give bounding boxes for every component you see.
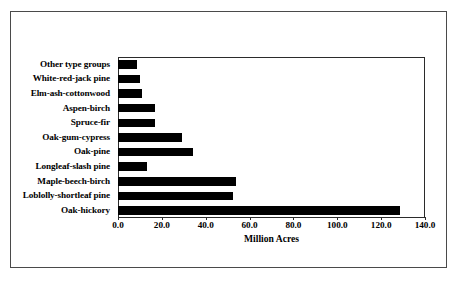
category-label: Other type groups — [40, 60, 110, 69]
bar-row — [118, 203, 425, 218]
category-label: White-red-jack pine — [33, 74, 110, 83]
bar-row — [118, 189, 425, 204]
bar — [118, 206, 400, 215]
x-axis-title: Million Acres — [118, 234, 425, 244]
bar — [118, 119, 155, 128]
bar — [118, 133, 182, 142]
x-tick-label: 0.0 — [112, 221, 123, 230]
bar — [118, 177, 236, 186]
category-label: Loblolly-shortleaf pine — [23, 191, 110, 200]
category-label-row: Maple-beech-birch — [0, 174, 114, 189]
category-label: Maple-beech-birch — [37, 177, 110, 186]
bar-chart-figure: Other type groupsWhite-red-jack pineElm-… — [0, 0, 458, 283]
bar — [118, 60, 137, 69]
bar-row — [118, 145, 425, 160]
category-label: Longleaf-slash pine — [36, 162, 110, 171]
category-label: Elm-ash-cottonwood — [31, 89, 110, 98]
category-label-row: Elm-ash-cottonwood — [0, 86, 114, 101]
category-label: Oak-gum-cypress — [42, 133, 110, 142]
x-tick-label: 140.0 — [415, 221, 436, 230]
category-label: Oak-pine — [74, 147, 110, 156]
bars-container — [118, 57, 425, 218]
category-label-row: Oak-hickory — [0, 203, 114, 218]
x-tick-label: 20.0 — [154, 221, 170, 230]
bar-row — [118, 159, 425, 174]
bar-row — [118, 86, 425, 101]
bar — [118, 192, 233, 201]
x-tick-label: 120.0 — [371, 221, 392, 230]
x-tick-label: 80.0 — [285, 221, 301, 230]
bar — [118, 162, 147, 171]
x-axis-ticks: 0.020.040.060.080.0100.0120.0140.0 — [118, 219, 425, 233]
bar — [118, 89, 142, 98]
bar-row — [118, 174, 425, 189]
bar-row — [118, 101, 425, 116]
category-label: Aspen-birch — [63, 104, 110, 113]
category-label-row: Aspen-birch — [0, 101, 114, 116]
x-tick-label: 100.0 — [327, 221, 348, 230]
category-label: Spruce-fir — [71, 118, 110, 127]
bar — [118, 75, 140, 84]
bar — [118, 148, 193, 157]
bar-row — [118, 130, 425, 145]
x-tick-label: 40.0 — [198, 221, 214, 230]
category-label: Oak-hickory — [61, 206, 110, 215]
category-label-row: Other type groups — [0, 57, 114, 72]
category-label-row: Longleaf-slash pine — [0, 159, 114, 174]
category-label-row: Oak-gum-cypress — [0, 130, 114, 145]
category-label-row: White-red-jack pine — [0, 72, 114, 87]
bar-row — [118, 72, 425, 87]
bar — [118, 104, 155, 113]
bar-row — [118, 116, 425, 131]
category-label-row: Oak-pine — [0, 145, 114, 160]
bar-row — [118, 57, 425, 72]
category-label-row: Loblolly-shortleaf pine — [0, 189, 114, 204]
category-label-row: Spruce-fir — [0, 116, 114, 131]
x-tick-label: 60.0 — [242, 221, 258, 230]
category-axis-labels: Other type groupsWhite-red-jack pineElm-… — [0, 57, 114, 218]
